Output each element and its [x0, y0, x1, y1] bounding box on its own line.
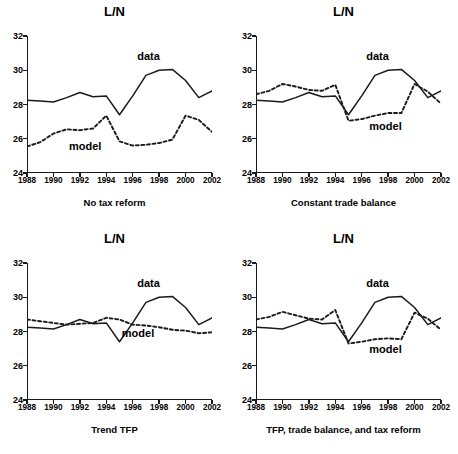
- series-canvas: [256, 263, 441, 400]
- x-tick-label: 1988: [247, 403, 265, 412]
- x-tick-label: 2000: [405, 403, 423, 412]
- x-tick-mark: [335, 173, 336, 177]
- y-tick-mark: [23, 331, 27, 332]
- x-tick-mark: [132, 173, 133, 177]
- x-tick-label: 1992: [71, 403, 89, 412]
- y-tick-mark: [252, 35, 256, 36]
- model-series-line: [256, 310, 441, 343]
- model-series-label: model: [122, 327, 154, 339]
- panel-caption: Trend TFP: [0, 424, 229, 435]
- x-tick-mark: [185, 173, 186, 177]
- x-tick-mark: [158, 173, 159, 177]
- x-tick-label: 1990: [44, 176, 62, 185]
- x-tick-label: 1988: [18, 176, 36, 185]
- y-tick-mark: [252, 365, 256, 366]
- x-tick-mark: [255, 173, 256, 177]
- panel-constant-trade-balance: L/N 2426283032 1988199019921994199619982…: [229, 0, 458, 227]
- model-series-label: model: [369, 343, 401, 355]
- x-tick-mark: [414, 400, 415, 404]
- x-tick-label: 1988: [247, 176, 265, 185]
- plot-area: [27, 36, 212, 173]
- x-tick-mark: [158, 400, 159, 404]
- panel-caption: TFP, trade balance, and tax reform: [229, 424, 458, 435]
- y-tick-label: 30: [242, 292, 252, 302]
- x-tick-label: 1998: [150, 176, 168, 185]
- y-tick-label: 30: [242, 65, 252, 75]
- data-series-label: data: [366, 50, 389, 62]
- y-tick-label: 28: [13, 100, 23, 110]
- y-tick-label: 26: [242, 361, 252, 371]
- y-tick-mark: [23, 365, 27, 366]
- x-tick-label: 1998: [379, 176, 397, 185]
- x-tick-label: 2002: [203, 176, 221, 185]
- x-tick-mark: [282, 400, 283, 404]
- data-series-line: [27, 296, 212, 341]
- y-tick-mark: [23, 297, 27, 298]
- x-tick-label: 1990: [273, 176, 291, 185]
- x-axis-labels: 19881990199219941996199820002002: [0, 403, 229, 417]
- model-series-line: [27, 318, 212, 333]
- x-tick-label: 2002: [432, 403, 450, 412]
- series-canvas: [27, 263, 212, 400]
- panel-caption: Constant trade balance: [229, 197, 458, 208]
- x-tick-mark: [308, 400, 309, 404]
- data-series-line: [256, 296, 441, 341]
- x-tick-label: 1992: [71, 176, 89, 185]
- x-tick-mark: [132, 400, 133, 404]
- panel-no-tax-reform: L/N 2426283032 1988199019921994199619982…: [0, 0, 229, 227]
- x-tick-label: 1998: [379, 403, 397, 412]
- series-canvas: [256, 36, 441, 173]
- y-tick-label: 30: [13, 292, 23, 302]
- y-tick-label: 26: [242, 134, 252, 144]
- x-tick-label: 1996: [124, 403, 142, 412]
- y-tick-label: 26: [13, 134, 23, 144]
- x-axis-labels: 19881990199219941996199820002002: [0, 176, 229, 190]
- x-tick-label: 1988: [18, 403, 36, 412]
- x-tick-label: 1998: [150, 403, 168, 412]
- x-tick-label: 1992: [300, 403, 318, 412]
- x-tick-label: 2000: [176, 403, 194, 412]
- x-tick-mark: [53, 400, 54, 404]
- data-series-label: data: [137, 50, 160, 62]
- y-tick-label: 32: [13, 258, 23, 268]
- x-axis-labels: 19881990199219941996199820002002: [229, 403, 458, 417]
- x-tick-mark: [282, 173, 283, 177]
- plot-area: [27, 263, 212, 400]
- y-axis-labels: 2426283032: [0, 227, 27, 400]
- x-tick-mark: [106, 173, 107, 177]
- x-tick-label: 1994: [326, 403, 344, 412]
- panel-trend-tfp: L/N 2426283032 1988199019921994199619982…: [0, 227, 229, 454]
- plot-area: [256, 263, 441, 400]
- x-tick-mark: [211, 400, 212, 404]
- x-tick-mark: [79, 400, 80, 404]
- x-axis-labels: 19881990199219941996199820002002: [229, 176, 458, 190]
- y-tick-mark: [23, 70, 27, 71]
- y-tick-mark: [252, 331, 256, 332]
- y-tick-mark: [23, 262, 27, 263]
- model-series-label: model: [69, 140, 101, 152]
- y-tick-label: 32: [242, 258, 252, 268]
- x-tick-mark: [211, 173, 212, 177]
- x-tick-mark: [26, 173, 27, 177]
- data-series-label: data: [137, 277, 160, 289]
- x-tick-label: 1996: [124, 176, 142, 185]
- y-tick-mark: [23, 104, 27, 105]
- plot-area: [256, 36, 441, 173]
- y-tick-label: 28: [242, 327, 252, 337]
- x-tick-mark: [335, 400, 336, 404]
- x-tick-mark: [106, 400, 107, 404]
- x-tick-mark: [361, 173, 362, 177]
- model-series-line: [27, 116, 212, 147]
- y-tick-mark: [252, 262, 256, 263]
- x-tick-mark: [308, 173, 309, 177]
- model-series-label: model: [369, 120, 401, 132]
- x-tick-mark: [79, 173, 80, 177]
- y-axis-labels: 2426283032: [229, 0, 256, 173]
- y-axis-labels: 2426283032: [229, 227, 256, 400]
- y-tick-mark: [252, 104, 256, 105]
- y-tick-mark: [252, 297, 256, 298]
- y-tick-label: 26: [13, 361, 23, 371]
- series-canvas: [27, 36, 212, 173]
- y-tick-label: 30: [13, 65, 23, 75]
- y-tick-mark: [252, 138, 256, 139]
